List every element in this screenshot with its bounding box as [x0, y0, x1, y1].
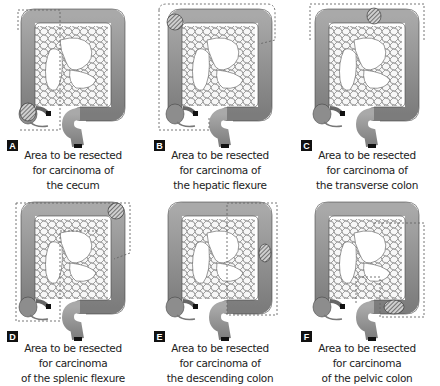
caption-line-2: for carcinoma of	[0, 163, 146, 178]
diagram-panel-b: B Area to be resected for carcinoma of t…	[147, 0, 293, 193]
panel-caption: Area to be resected for carcinoma of the…	[147, 148, 293, 193]
colon-diagram	[0, 0, 146, 150]
diagram-panel-f: F Area to be resected for carcinoma of t…	[294, 193, 440, 386]
caption-line-2: for carcinoma of	[147, 356, 293, 371]
cecum	[313, 297, 331, 317]
colon-diagram	[294, 193, 440, 343]
cecum	[166, 297, 184, 317]
caption-line-3: of the splenic flexure	[0, 371, 146, 386]
cecum	[19, 297, 37, 317]
diagram-panel-c: C Area to be resected for carcinoma of t…	[294, 0, 440, 193]
caption-line-1: Area to be resected	[147, 148, 293, 163]
colon-diagram	[294, 0, 440, 150]
caption-line-1: Area to be resected	[0, 341, 146, 356]
panel-caption: Area to be resected for carcinoma of the…	[294, 148, 440, 193]
colon-diagram	[147, 193, 293, 343]
caption-line-1: Area to be resected	[0, 148, 146, 163]
tumor-hatched-area	[259, 244, 271, 262]
panel-caption: Area to be resected for carcinoma of the…	[0, 148, 146, 193]
tumor-hatched-area	[108, 203, 124, 219]
diagram-panel-d: D Area to be resected for carcinoma of t…	[0, 193, 146, 386]
cecum	[166, 104, 184, 124]
tumor-hatched-area	[384, 300, 404, 314]
caption-line-2: for carcinoma	[0, 356, 146, 371]
colon-diagram	[0, 193, 146, 343]
panel-caption: Area to be resected for carcinoma of the…	[0, 341, 146, 386]
caption-line-1: Area to be resected	[294, 148, 440, 163]
caption-line-1: Area to be resected	[147, 341, 293, 356]
tumor-hatched-area	[367, 8, 381, 24]
caption-line-2: for carcinoma	[294, 356, 440, 371]
caption-line-3: the hepatic flexure	[147, 178, 293, 193]
cecum	[313, 104, 331, 124]
panel-caption: Area to be resected for carcinoma of the…	[294, 341, 440, 386]
caption-line-2: for carcinoma of	[294, 163, 440, 178]
caption-line-3: the cecum	[0, 178, 146, 193]
caption-line-3: the transverse colon	[294, 178, 440, 193]
caption-line-3: of the pelvic colon	[294, 371, 440, 386]
diagram-panel-a: A Area to be resected for carcinoma of t…	[0, 0, 146, 193]
caption-line-3: the descending colon	[147, 371, 293, 386]
panel-caption: Area to be resected for carcinoma of the…	[147, 341, 293, 386]
caption-line-2: for carcinoma of	[147, 163, 293, 178]
tumor-hatched-area	[167, 14, 183, 30]
colon-diagram	[147, 0, 293, 150]
tumor-hatched-area	[20, 103, 36, 121]
caption-line-1: Area to be resected	[294, 341, 440, 356]
diagram-panel-e: E Area to be resected for carcinoma of t…	[147, 193, 293, 386]
